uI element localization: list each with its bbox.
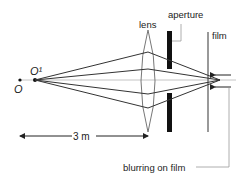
object-point-o <box>18 78 21 81</box>
label-aperture: aperture <box>168 9 203 20</box>
blurring-leader-line <box>196 88 229 167</box>
label-lens: lens <box>139 19 157 30</box>
label-film: film <box>212 30 227 41</box>
label-object-o: O <box>14 83 23 95</box>
lens-aperture-diagram: O O¹ lens aperture film 3 m blurring on … <box>0 0 241 183</box>
label-distance: 3 m <box>73 131 90 142</box>
label-blurring-on-film: blurring on film <box>123 162 185 173</box>
aperture-upper-bar <box>167 31 172 69</box>
label-object-o-prime: O¹ <box>30 65 43 77</box>
aperture-leader-line <box>172 24 181 41</box>
lens-shape <box>141 30 155 132</box>
